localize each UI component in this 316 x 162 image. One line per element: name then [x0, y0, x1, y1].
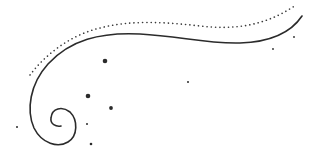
swirl-curve	[30, 16, 302, 145]
dot	[103, 59, 108, 64]
dot	[90, 143, 93, 146]
dot	[272, 48, 274, 50]
dotted-arc	[30, 5, 296, 75]
dot	[293, 36, 295, 38]
dot	[187, 81, 189, 83]
dot	[86, 123, 88, 125]
dot	[109, 106, 113, 110]
swirl-illustration	[0, 0, 316, 162]
dot	[16, 126, 18, 128]
dot	[86, 94, 91, 99]
scattered-dots	[16, 36, 295, 145]
